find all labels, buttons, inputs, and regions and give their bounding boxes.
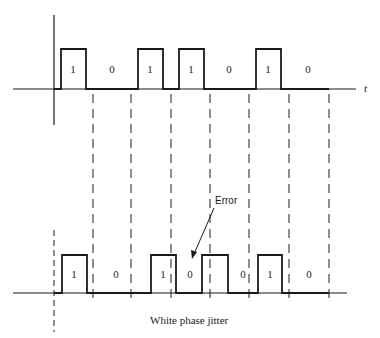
caption: White phase jitter bbox=[150, 314, 229, 326]
bit-label: 0 bbox=[306, 268, 312, 280]
error-arrow-shaft bbox=[194, 208, 214, 254]
bit-label: 0 bbox=[226, 63, 232, 75]
clock-boundaries bbox=[93, 94, 329, 300]
bit-label: 1 bbox=[267, 268, 273, 280]
bit-label: 1 bbox=[70, 63, 76, 75]
error-label: Error bbox=[215, 195, 238, 206]
bit-label: 1 bbox=[71, 268, 77, 280]
bit-label: 0 bbox=[240, 268, 246, 280]
error-annotation bbox=[191, 208, 214, 259]
bit-label: 1 bbox=[265, 63, 271, 75]
error-arrow-head bbox=[191, 250, 197, 259]
bit-label: 0 bbox=[187, 268, 193, 280]
jitter-diagram: t Error White phase jitter 1 0 1 1 0 1 0… bbox=[0, 0, 380, 338]
bit-label: 0 bbox=[109, 63, 115, 75]
bit-label: 0 bbox=[305, 63, 311, 75]
bottom-bit-labels: 1 0 1 0 0 1 0 bbox=[71, 268, 312, 280]
top-bit-labels: 1 0 1 1 0 1 0 bbox=[70, 63, 311, 75]
time-axis-label: t bbox=[364, 82, 368, 94]
bit-label: 0 bbox=[113, 268, 119, 280]
bit-label: 1 bbox=[188, 63, 194, 75]
bit-label: 1 bbox=[160, 268, 166, 280]
bit-label: 1 bbox=[147, 63, 153, 75]
